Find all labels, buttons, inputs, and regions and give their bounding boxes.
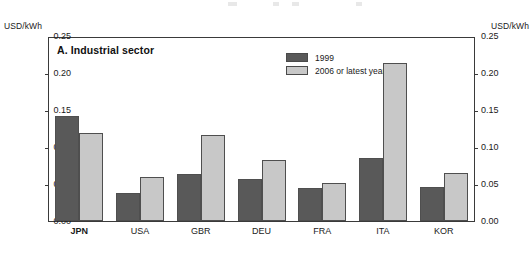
bar (55, 116, 79, 221)
bar (383, 63, 407, 221)
y-tick-label-right: 0.25 (481, 32, 515, 41)
bar-group (238, 38, 286, 221)
bar (420, 187, 444, 221)
bars-layer (49, 38, 474, 221)
x-tick-label-fra: FRA (292, 226, 353, 236)
y-axis-unit-label-left: USD/kWh (4, 21, 42, 31)
scan-artifact (356, 2, 362, 6)
bar (359, 158, 383, 221)
x-tick-label-deu: DEU (231, 226, 292, 236)
bar-group (116, 38, 164, 221)
x-tick-label-jpn: JPN (49, 226, 110, 236)
scan-artifact (273, 2, 279, 6)
bar (79, 133, 103, 221)
y-tick-label-right: 0.05 (481, 180, 515, 189)
bar (262, 160, 286, 221)
y-tick-label-right: 0.10 (481, 143, 515, 152)
bar-group (177, 38, 225, 221)
bar (322, 183, 346, 221)
bar (116, 193, 140, 221)
y-tick-label-right: 0.15 (481, 106, 515, 115)
y-tick-mark-right (474, 74, 478, 75)
y-tick-label-right: 0.00 (481, 217, 515, 226)
y-tick-mark-right (474, 148, 478, 149)
bar (238, 179, 262, 221)
bar (444, 173, 468, 221)
chart-figure: USD/kWh USD/kWh 0.250.250.200.200.150.15… (0, 0, 532, 254)
scan-artifact (292, 2, 299, 6)
bar-group (298, 38, 346, 221)
y-tick-label-right: 0.20 (481, 69, 515, 78)
bar (298, 188, 322, 221)
bar-group (359, 38, 407, 221)
y-axis-unit-label-right: USD/kWh (491, 21, 529, 31)
x-tick-label-gbr: GBR (170, 226, 231, 236)
x-tick-label-ita: ITA (353, 226, 414, 236)
x-tick-label-kor: KOR (413, 226, 474, 236)
bar (201, 135, 225, 221)
y-tick-mark-right (474, 111, 478, 112)
bar-group (420, 38, 468, 221)
scan-artifact (228, 2, 237, 6)
bar (140, 177, 164, 221)
x-tick-label-usa: USA (110, 226, 171, 236)
bar-group (55, 38, 103, 221)
y-tick-mark-right (474, 185, 478, 186)
bar (177, 174, 201, 221)
